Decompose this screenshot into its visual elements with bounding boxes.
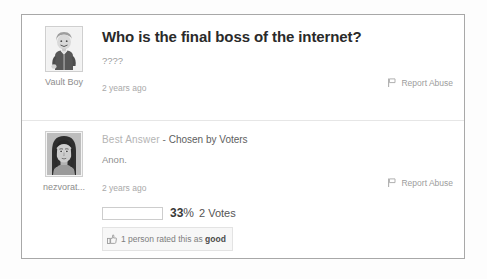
question-content: Who is the final boss of the internet? ?… xyxy=(102,27,454,90)
answer-block: nezvorat... Best Answer - Chosen by Vote… xyxy=(22,120,464,258)
best-answer-badge: Best Answer xyxy=(102,134,160,145)
vote-percent: 33% xyxy=(170,207,194,220)
answer-author[interactable]: nezvorat... xyxy=(33,131,95,193)
answer-author-name: nezvorat... xyxy=(33,182,95,193)
question-report-abuse-link[interactable]: Report Abuse xyxy=(388,77,453,91)
answer-report-abuse-label: Report Abuse xyxy=(401,178,453,188)
flag-icon xyxy=(388,78,396,91)
qa-card: Vault Boy Who is the final boss of the i… xyxy=(21,14,465,259)
rating-prefix: 1 person rated this as xyxy=(121,234,205,244)
page-title: Who is the final boss of the internet? xyxy=(102,27,454,46)
question-meta-row: 2 years ago Report Abuse xyxy=(102,77,454,90)
answer-report-abuse-link[interactable]: Report Abuse xyxy=(388,177,453,191)
chosen-by-voters-label: Chosen by Voters xyxy=(169,134,248,145)
answer-content: Best Answer - Chosen by Voters Anon. 2 y… xyxy=(102,133,454,251)
vote-progress-bar xyxy=(102,207,163,220)
page-surface: Vault Boy Who is the final boss of the i… xyxy=(0,0,487,279)
question-author-name: Vault Boy xyxy=(33,77,95,88)
best-answer-header: Best Answer - Chosen by Voters xyxy=(102,133,454,146)
question-author[interactable]: Vault Boy xyxy=(33,26,95,88)
vote-count-label: 2 Votes xyxy=(199,207,236,220)
rating-verdict: good xyxy=(205,234,226,244)
vote-percent-value: 33 xyxy=(170,206,183,220)
best-answer-separator: - xyxy=(160,134,169,145)
question-report-abuse-label: Report Abuse xyxy=(401,78,453,88)
thumbs-up-icon xyxy=(107,230,117,248)
flag-icon xyxy=(388,178,396,191)
vote-percent-sign: % xyxy=(183,206,194,220)
rating-pill[interactable]: 1 person rated this as good xyxy=(102,227,233,251)
votes-row: 33% 2 Votes xyxy=(102,207,454,220)
female-portrait-avatar-icon xyxy=(47,133,81,175)
question-timestamp: 2 years ago xyxy=(102,83,146,93)
answer-body-text: Anon. xyxy=(102,154,454,166)
vault-boy-avatar-icon xyxy=(47,28,81,70)
question-detail: ???? xyxy=(102,55,454,67)
answer-meta-row: 2 years ago Report Abuse xyxy=(102,177,454,190)
answer-timestamp: 2 years ago xyxy=(102,183,146,193)
rating-text: 1 person rated this as good xyxy=(121,234,226,245)
vault-boy-avatar[interactable] xyxy=(45,26,83,72)
question-block: Vault Boy Who is the final boss of the i… xyxy=(22,15,464,120)
female-portrait-avatar[interactable] xyxy=(45,131,83,177)
